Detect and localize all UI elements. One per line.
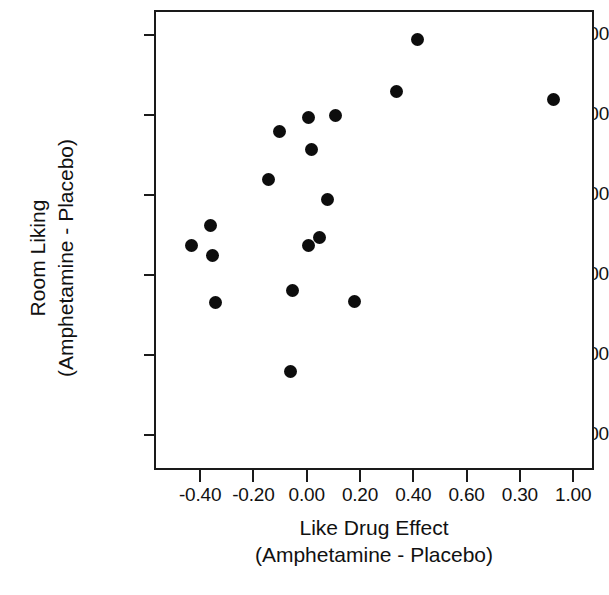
x-axis-tick: [412, 470, 414, 482]
data-point: [302, 111, 315, 124]
x-axis-title-line-1: Like Drug Effect: [154, 514, 594, 541]
data-point: [329, 109, 342, 122]
data-point: [204, 219, 217, 232]
x-axis-tick: [252, 470, 254, 482]
y-axis-title-line-2: (Amphetamine - Placebo): [52, 28, 80, 488]
scatter-plot-figure: Room Liking (Amphetamine - Placebo) 40.0…: [0, 0, 609, 595]
data-point: [209, 296, 222, 309]
x-axis-title-line-2: (Amphetamine - Placebo): [154, 541, 594, 568]
x-axis-tick: [359, 470, 361, 482]
data-point: [547, 93, 560, 106]
data-point: [206, 249, 219, 262]
data-point: [390, 85, 403, 98]
data-point: [286, 284, 299, 297]
plot-area-frame: [154, 10, 594, 470]
data-point: [302, 239, 315, 252]
y-axis-title-line-1: Room Liking: [24, 28, 52, 488]
y-axis-title: Room Liking (Amphetamine - Placebo): [24, 28, 80, 488]
data-point: [284, 365, 297, 378]
data-point: [411, 33, 424, 46]
data-point: [313, 231, 326, 244]
data-points-layer: [156, 12, 592, 468]
data-point: [321, 193, 334, 206]
x-axis-tick: [572, 470, 574, 482]
x-axis-title: Like Drug Effect (Amphetamine - Placebo): [154, 514, 594, 568]
data-point: [305, 143, 318, 156]
x-axis-tick: [306, 470, 308, 482]
x-axis-tick: [519, 470, 521, 482]
data-point: [348, 295, 361, 308]
data-point: [273, 125, 286, 138]
data-point: [185, 239, 198, 252]
x-axis-tick-label: 1.00: [538, 484, 608, 506]
x-axis-tick: [466, 470, 468, 482]
data-point: [262, 173, 275, 186]
x-axis-tick: [199, 470, 201, 482]
